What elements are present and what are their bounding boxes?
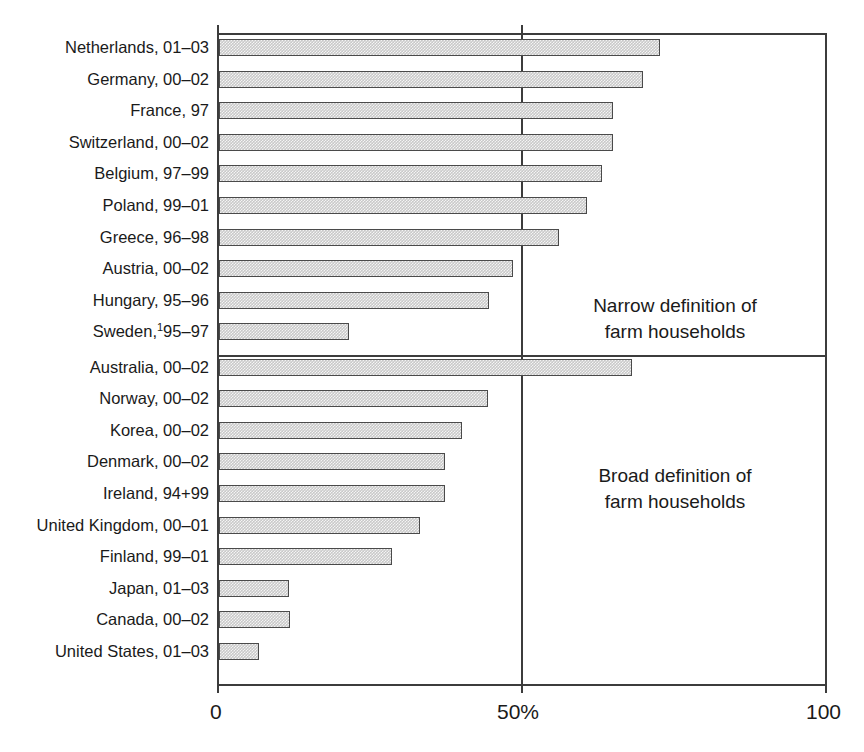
bar — [219, 580, 289, 597]
bar-category-label: Ireland, 94+99 — [103, 482, 209, 504]
bar-category-label: Belgium, 97–99 — [94, 162, 209, 184]
bar-category-label: Japan, 01–03 — [109, 577, 209, 599]
bar — [219, 165, 602, 182]
bar-category-label: Sweden,195–97 — [93, 320, 209, 342]
bar-category-label: Canada, 00–02 — [96, 608, 209, 630]
bar — [219, 197, 587, 214]
bar — [219, 134, 613, 151]
bar — [219, 453, 445, 470]
footnote-marker: 1 — [157, 321, 163, 333]
bar-category-label: Denmark, 00–02 — [87, 450, 209, 472]
table-row: Australia, 00–02 — [0, 353, 864, 385]
table-row: Finland, 99–01 — [0, 542, 864, 574]
bar — [219, 643, 259, 660]
bar — [219, 260, 513, 277]
x-tick-0 — [217, 684, 219, 693]
table-row: Netherlands, 01–03 — [0, 33, 864, 65]
bar-category-label: Greece, 96–98 — [100, 226, 209, 248]
bar — [219, 548, 392, 565]
x-tick-50 — [521, 684, 523, 693]
bar-category-label: Australia, 00–02 — [90, 356, 209, 378]
bar-category-label: Netherlands, 01–03 — [65, 36, 209, 58]
x-tick-label-50: 50% — [497, 700, 539, 724]
bar — [219, 517, 420, 534]
bar — [219, 611, 290, 628]
table-row: Korea, 00–02 — [0, 416, 864, 448]
bar — [219, 485, 445, 502]
table-row: Norway, 00–02 — [0, 384, 864, 416]
annotation-narrow-definition: Narrow definition of farm households — [540, 293, 810, 345]
bar-category-label: Finland, 99–01 — [100, 545, 209, 567]
bar — [219, 71, 643, 88]
x-tick-label-0: 0 — [210, 700, 222, 724]
bar-category-label: Austria, 00–02 — [103, 257, 209, 279]
bar-category-label: Korea, 00–02 — [110, 419, 209, 441]
table-row: Japan, 01–03 — [0, 574, 864, 606]
bar — [219, 102, 613, 119]
bar — [219, 359, 632, 376]
bar-category-label: Poland, 99–01 — [103, 194, 209, 216]
bar-category-label: Germany, 00–02 — [87, 68, 209, 90]
table-row: Canada, 00–02 — [0, 605, 864, 637]
bar — [219, 292, 489, 309]
table-row: Poland, 99–01 — [0, 191, 864, 223]
x-tick-label-100: 100 — [806, 700, 841, 724]
table-row: United States, 01–03 — [0, 637, 864, 669]
bar-chart: 0 50% 100 Netherlands, 01–03Germany, 00–… — [0, 0, 864, 752]
table-row: France, 97 — [0, 96, 864, 128]
bar-category-label: Hungary, 95–96 — [93, 289, 209, 311]
bar — [219, 39, 660, 56]
table-row: Germany, 00–02 — [0, 65, 864, 97]
bar — [219, 422, 462, 439]
bar — [219, 323, 349, 340]
bar — [219, 229, 559, 246]
bar-category-label: United States, 01–03 — [55, 640, 209, 662]
table-row: Switzerland, 00–02 — [0, 128, 864, 160]
annotation-broad-definition: Broad definition of farm households — [540, 463, 810, 515]
bar — [219, 390, 488, 407]
bar-category-label: Norway, 00–02 — [99, 387, 209, 409]
x-tick-100 — [825, 684, 827, 693]
table-row: Greece, 96–98 — [0, 223, 864, 255]
table-row: Belgium, 97–99 — [0, 159, 864, 191]
table-row: United Kingdom, 00–01 — [0, 511, 864, 543]
bar-category-label: United Kingdom, 00–01 — [37, 514, 209, 536]
bar-category-label: Switzerland, 00–02 — [69, 131, 209, 153]
table-row: Austria, 00–02 — [0, 254, 864, 286]
bar-category-label: France, 97 — [130, 99, 209, 121]
